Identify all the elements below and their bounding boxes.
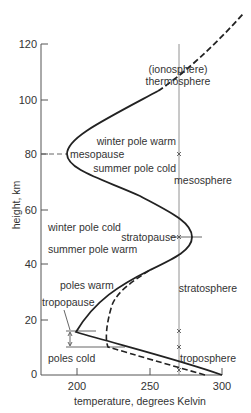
y-tick-20: 20: [25, 314, 37, 326]
label-mesopause: mesopause: [70, 148, 124, 160]
x-tick-300: 300: [213, 380, 231, 392]
y-tick-80: 80: [25, 148, 37, 160]
y-tick-40: 40: [25, 258, 37, 270]
x-tick-labels: 200 250 300: [68, 380, 231, 392]
y-tick-100: 100: [19, 94, 37, 106]
y-tick-120: 120: [19, 38, 37, 50]
annotations: (ionosphere) thermosphere winter pole wa…: [42, 63, 237, 364]
label-winter-pole-warm: winter pole warm: [96, 135, 177, 147]
label-tropopause: tropopause: [42, 296, 95, 308]
label-poles-cold: poles cold: [48, 352, 95, 364]
tropopause-pointer: [64, 310, 70, 330]
label-ionosphere: (ionosphere): [149, 63, 208, 75]
label-winter-pole-cold: winter pole cold: [47, 221, 121, 233]
atmosphere-temperature-chart: 120 100 80 60 40 20 0 200 250 300 temper…: [0, 0, 251, 413]
label-troposphere: troposphere: [180, 352, 236, 364]
label-stratosphere: stratosphere: [179, 282, 238, 294]
label-summer-pole-cold: summer pole cold: [93, 162, 176, 174]
x-axis-label: temperature, degrees Kelvin: [74, 395, 206, 407]
x-tick-250: 250: [141, 380, 159, 392]
label-thermosphere: thermosphere: [146, 75, 211, 87]
label-summer-pole-warm: summer pole warm: [48, 243, 138, 255]
label-mesosphere: mesosphere: [174, 174, 232, 186]
y-tick-0: 0: [31, 368, 37, 380]
y-tick-60: 60: [25, 204, 37, 216]
label-stratopause: stratopause: [121, 231, 176, 243]
x-tick-200: 200: [68, 380, 86, 392]
y-axis-label: height, km: [10, 181, 22, 230]
label-poles-warm: poles warm: [60, 279, 114, 291]
